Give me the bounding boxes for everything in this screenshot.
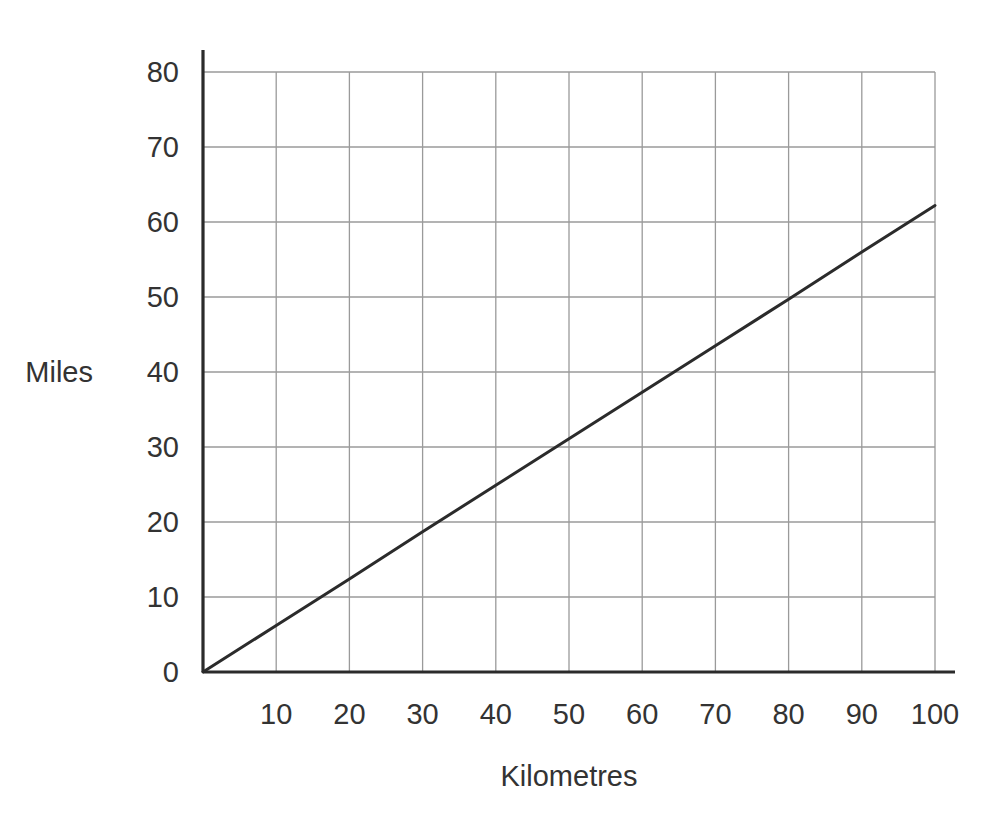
x-axis-title: Kilometres bbox=[501, 762, 638, 791]
y-axis-tick-label: 70 bbox=[0, 133, 179, 162]
y-axis-tick-label: 60 bbox=[0, 208, 179, 237]
x-axis-tick-label: 70 bbox=[699, 700, 731, 729]
conversion-chart: 01020304050607080 102030405060708090100 … bbox=[0, 0, 1004, 818]
x-axis-tick-label: 20 bbox=[333, 700, 365, 729]
chart-background bbox=[0, 0, 1004, 818]
y-axis-tick-label: 30 bbox=[0, 433, 179, 462]
x-axis-tick-label: 80 bbox=[772, 700, 804, 729]
x-axis-tick-label: 50 bbox=[553, 700, 585, 729]
y-axis-tick-label: 80 bbox=[0, 58, 179, 87]
x-axis-tick-label: 30 bbox=[406, 700, 438, 729]
x-axis-tick-label: 40 bbox=[480, 700, 512, 729]
x-axis-tick-label: 90 bbox=[846, 700, 878, 729]
x-axis-tick-label: 10 bbox=[260, 700, 292, 729]
y-axis-title: Miles bbox=[0, 358, 93, 387]
y-axis-tick-label: 50 bbox=[0, 283, 179, 312]
y-axis-tick-label: 20 bbox=[0, 508, 179, 537]
x-axis-tick-label: 100 bbox=[911, 700, 959, 729]
chart-canvas bbox=[0, 0, 1004, 818]
y-axis-tick-label: 10 bbox=[0, 583, 179, 612]
y-axis-tick-label: 0 bbox=[0, 658, 179, 687]
x-axis-tick-label: 60 bbox=[626, 700, 658, 729]
